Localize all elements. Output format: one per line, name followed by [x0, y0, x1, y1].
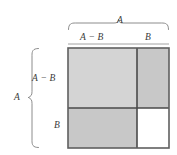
top-left-region [68, 48, 137, 108]
left-total-label: A [14, 93, 20, 103]
left-brace [29, 49, 39, 148]
top-total-label: A [117, 16, 123, 26]
top-left-segment-label: A − B [80, 33, 104, 43]
difference-of-squares-diagram: A A − B B A A − B B [0, 0, 177, 155]
left-top-segment-label: A − B [32, 74, 56, 84]
top-right-region [137, 48, 169, 108]
diagram-canvas [0, 0, 177, 155]
bottom-right-region [137, 108, 169, 148]
bottom-left-region [68, 108, 137, 148]
left-bottom-segment-label: B [54, 121, 60, 131]
top-right-segment-label: B [145, 33, 151, 43]
